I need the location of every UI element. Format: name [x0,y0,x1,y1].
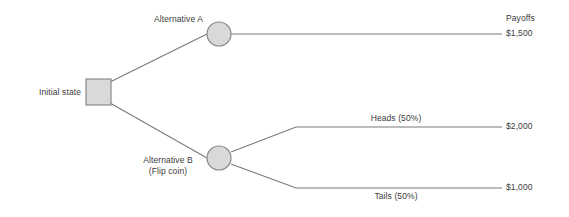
decision-tree-graphics [0,0,569,217]
branch-label-tails: Tails (50%) [312,191,480,202]
edge-initial-to-alternative-b [110,103,207,158]
initial-state-label: Initial state [0,87,81,98]
alternative-a-label: Alternative A [96,14,203,25]
payoffs-header: Payoffs [506,13,535,24]
payoff-alternative-a: $1,500 [506,28,533,39]
branch-label-heads: Heads (50%) [312,113,480,124]
decision-node-square [86,79,111,105]
chance-node-alternative-a [207,22,231,46]
edge-tails-branch [231,164,502,188]
payoff-heads: $2,000 [506,121,533,132]
decision-tree-diagram: Initial state Alternative A Alternative … [0,0,569,217]
alternative-b-label: Alternative B (Flip coin) [132,155,204,177]
alternative-b-label-line2: (Flip coin) [132,166,204,177]
edge-initial-to-alternative-a [110,34,207,82]
payoff-tails: $1,000 [506,182,533,193]
edge-heads-branch [231,127,502,152]
chance-node-alternative-b [207,146,231,170]
alternative-b-label-line1: Alternative B [132,155,204,166]
